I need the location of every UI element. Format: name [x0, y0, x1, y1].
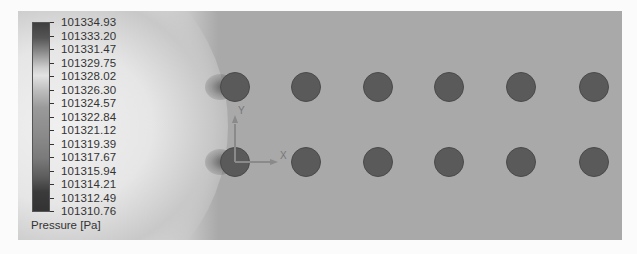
cylinder — [291, 147, 321, 177]
colorbar-label: 101334.93 — [61, 16, 116, 28]
colorbar-ticks — [50, 22, 54, 212]
colorbar-label: 101315.94 — [61, 165, 116, 177]
colorbar-tick — [50, 157, 54, 158]
colorbar-label: 101333.20 — [61, 30, 116, 42]
y-axis-line — [234, 124, 236, 162]
y-axis-label: Y — [238, 105, 245, 116]
pressure-contour-plot: Y X 101334.93101333.20101331.47101329.75… — [18, 11, 622, 240]
y-axis-arrow-icon — [232, 115, 238, 123]
colorbar-tick — [50, 36, 54, 37]
colorbar-tick — [50, 103, 54, 104]
colorbar-label: 101329.75 — [61, 57, 116, 69]
colorbar-label: 101317.67 — [61, 151, 116, 163]
colorbar-label: 101331.47 — [61, 43, 116, 55]
colorbar-label: 101310.76 — [61, 205, 116, 217]
x-axis-label: X — [280, 150, 287, 161]
colorbar-tick — [50, 130, 54, 131]
colorbar-tick — [50, 22, 54, 23]
cylinder — [579, 72, 609, 102]
colorbar-label: 101328.02 — [61, 70, 116, 82]
colorbar-label: 101321.12 — [61, 124, 116, 136]
colorbar-tick — [50, 63, 54, 64]
colorbar-label: 101322.84 — [61, 111, 116, 123]
x-axis-arrow-icon — [270, 159, 278, 165]
cylinder — [434, 72, 464, 102]
cylinder — [579, 147, 609, 177]
colorbar-label: 101319.39 — [61, 138, 116, 150]
colorbar-tick — [50, 184, 54, 185]
colorbar-tick — [50, 144, 54, 145]
cylinder — [506, 147, 536, 177]
colorbar-tick — [50, 117, 54, 118]
legend-title: Pressure [Pa] — [31, 219, 101, 231]
cylinder — [506, 72, 536, 102]
colorbar-label: 101314.21 — [61, 178, 116, 190]
cylinder — [363, 72, 393, 102]
colorbar-tick — [50, 90, 54, 91]
cylinder — [291, 72, 321, 102]
colorbar-label: 101326.30 — [61, 84, 116, 96]
colorbar — [32, 22, 50, 212]
colorbar-label: 101312.49 — [61, 192, 116, 204]
cylinder — [363, 147, 393, 177]
cylinder — [434, 147, 464, 177]
colorbar-tick — [50, 198, 54, 199]
cylinder — [220, 72, 250, 102]
colorbar-tick — [50, 49, 54, 50]
colorbar-label: 101324.57 — [61, 97, 116, 109]
colorbar-tick — [50, 76, 54, 77]
colorbar-tick — [50, 211, 54, 212]
x-axis-line — [235, 161, 271, 163]
colorbar-tick — [50, 171, 54, 172]
